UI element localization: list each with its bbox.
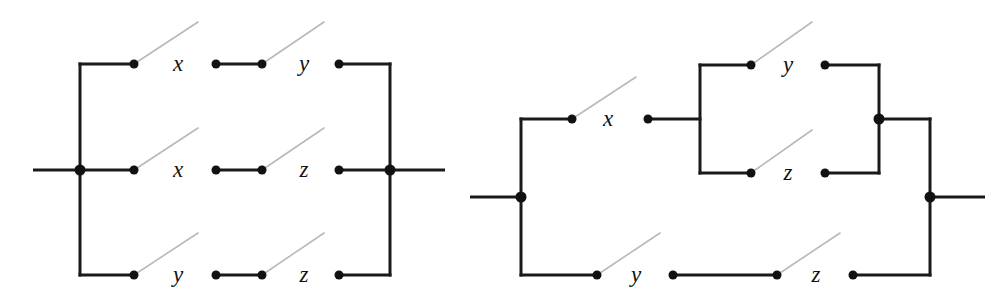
switch-contact-right	[849, 271, 858, 280]
switching-circuit-figure: xyxzyz xyzyz	[0, 0, 1006, 304]
switch-contact-right	[212, 60, 221, 69]
switch-label-x: x	[172, 51, 184, 76]
switch-contact-left	[593, 271, 602, 280]
right-network-group: xyzyz	[470, 22, 985, 287]
switch-contact-left	[747, 61, 756, 70]
switch-contact-right	[335, 166, 344, 175]
switch-contact-right	[821, 169, 830, 178]
switch-lever	[134, 22, 198, 64]
switch-label-y: y	[297, 51, 310, 76]
switch-lever	[262, 233, 324, 275]
switch-contact-left	[258, 60, 267, 69]
switch-contact-left	[130, 60, 139, 69]
inner-right-junction-node	[874, 114, 885, 125]
switch-lever	[597, 233, 660, 275]
left-network-group: xyxzyz	[33, 22, 445, 287]
switch-contact-right	[821, 61, 830, 70]
switch-label-x: x	[172, 157, 184, 182]
switch-contact-right	[669, 271, 678, 280]
switch-contact-left	[773, 271, 782, 280]
input-junction-node	[75, 165, 86, 176]
switch-label-z: z	[299, 262, 309, 287]
switch-lever	[262, 22, 324, 64]
switch-lever	[134, 233, 198, 275]
switch-lever	[262, 128, 324, 170]
switch-lever	[751, 130, 812, 173]
circuit-diagram-canvas: xyxzyz xyzyz	[0, 0, 1006, 304]
switch-label-z: z	[811, 262, 821, 287]
switch-contact-left	[130, 271, 139, 280]
switch-label-z: z	[783, 160, 793, 185]
switch-label-x: x	[602, 106, 614, 131]
switch-label-y: y	[171, 262, 184, 287]
switch-contact-right	[335, 60, 344, 69]
switch-lever	[751, 22, 812, 65]
switch-contact-left	[747, 169, 756, 178]
switch-label-y: y	[629, 262, 642, 287]
switch-contact-left	[568, 115, 577, 124]
switch-contact-right	[644, 115, 653, 124]
switch-contact-left	[258, 271, 267, 280]
switch-label-z: z	[299, 157, 309, 182]
switch-lever	[134, 128, 198, 170]
input-junction-node	[516, 192, 527, 203]
switch-contact-right	[212, 271, 221, 280]
output-junction-node	[925, 192, 936, 203]
output-junction-node	[385, 165, 396, 176]
switch-contact-left	[130, 166, 139, 175]
switch-contact-left	[258, 166, 267, 175]
switch-label-y: y	[781, 52, 794, 77]
switch-lever	[777, 233, 840, 275]
switch-contact-right	[212, 166, 221, 175]
switch-contact-right	[335, 271, 344, 280]
